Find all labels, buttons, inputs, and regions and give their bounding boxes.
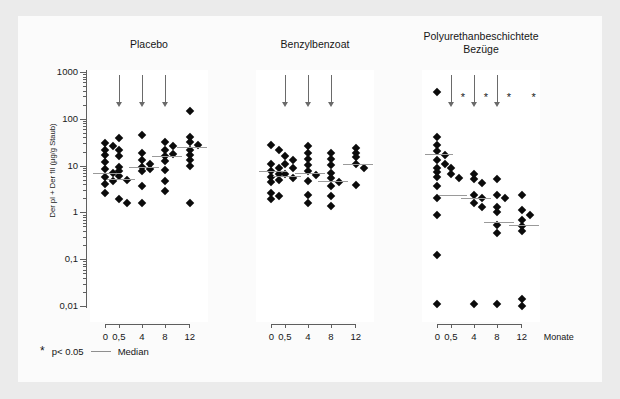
x-axis-tick-label: 8	[328, 331, 333, 342]
intervention-arrow	[451, 75, 452, 103]
y-axis-minor-tick	[83, 220, 87, 221]
figure-container: Der pI + Der fII (µg/g Staub) * p< 0.05 …	[18, 16, 602, 382]
y-axis-minor-tick	[83, 133, 87, 134]
x-axis-tick	[474, 324, 475, 328]
y-axis-minor-tick	[83, 176, 87, 177]
x-axis-tick-label: 0,5	[278, 331, 291, 342]
x-axis-tick	[119, 324, 120, 328]
median-line	[129, 167, 159, 168]
y-axis-minor-tick	[83, 126, 87, 127]
x-axis-tick-label: 0	[103, 331, 108, 342]
x-axis-tick	[331, 324, 332, 328]
median-line-icon	[91, 351, 111, 352]
y-axis-minor-tick	[83, 264, 87, 265]
median-line	[152, 156, 182, 157]
intervention-arrow	[285, 75, 286, 103]
y-axis-minor-tick	[83, 231, 87, 232]
legend-median-label: Median	[118, 346, 149, 357]
x-axis-tick	[285, 324, 286, 328]
median-line	[107, 179, 135, 180]
y-axis-tick-label: 100	[38, 113, 78, 124]
intervention-arrow-head	[471, 102, 477, 107]
x-axis-tick-label: 0	[269, 331, 274, 342]
x-axis-tick-label: 4	[139, 331, 144, 342]
y-axis-minor-tick	[83, 270, 87, 271]
y-axis-minor-tick	[83, 284, 87, 285]
y-axis-tick-label: 0,01	[38, 300, 78, 311]
y-axis-major-tick	[80, 166, 87, 167]
x-axis-tick-label: 4	[305, 331, 310, 342]
y-axis-minor-tick	[83, 105, 87, 106]
x-axis-tick	[497, 324, 498, 328]
median-line	[461, 198, 491, 199]
y-axis-major-tick	[80, 259, 87, 260]
x-axis-tick-label: 12	[184, 331, 195, 342]
panel-title-3: Polyurethanbeschichtete Bezüge	[396, 30, 566, 55]
median-line	[509, 225, 539, 226]
significance-star-icon: *	[40, 347, 45, 356]
intervention-arrow	[331, 75, 332, 103]
y-axis-major-tick	[80, 212, 87, 213]
y-axis-tick-label: 0,1	[38, 253, 78, 264]
y-axis-minor-tick	[83, 223, 87, 224]
y-axis-major-tick	[80, 306, 87, 307]
y-axis-minor-tick	[83, 82, 87, 83]
intervention-arrow-head	[162, 102, 168, 107]
x-axis-tick-label: 12	[350, 331, 361, 342]
significance-star: *	[507, 94, 511, 100]
y-axis-minor-tick	[83, 245, 87, 246]
y-axis-minor-tick	[83, 292, 87, 293]
intervention-arrow	[497, 75, 498, 103]
chart-legend: * p< 0.05 Median	[40, 346, 149, 357]
x-axis-tick	[308, 324, 309, 328]
y-axis-minor-tick	[83, 129, 87, 130]
y-axis-minor-tick	[83, 173, 87, 174]
median-line	[318, 181, 348, 182]
y-axis-minor-tick	[83, 123, 87, 124]
plot-area-2	[256, 70, 374, 322]
y-axis-minor-tick	[83, 170, 87, 171]
intervention-arrow	[119, 75, 120, 103]
median-line	[295, 173, 325, 174]
median-line	[93, 173, 121, 174]
y-axis-minor-tick	[83, 91, 87, 92]
panel-title-2: Benzylbenzoat	[230, 38, 400, 51]
significance-star: *	[484, 94, 488, 100]
y-axis-minor-tick	[83, 152, 87, 153]
x-axis-tick	[142, 324, 143, 328]
panel-title-1: Placebo	[64, 38, 234, 51]
y-axis-minor-tick	[83, 96, 87, 97]
intervention-arrow	[308, 75, 309, 103]
y-axis-minor-tick	[83, 226, 87, 227]
intervention-arrow	[474, 75, 475, 103]
y-axis-tick-label: 1	[38, 206, 78, 217]
y-axis-minor-tick	[83, 143, 87, 144]
intervention-arrow-head	[448, 102, 454, 107]
intervention-arrow	[165, 75, 166, 103]
intervention-arrow-head	[305, 102, 311, 107]
x-axis-unit-label: Monate	[544, 332, 574, 342]
y-axis-minor-tick	[83, 273, 87, 274]
median-line	[484, 222, 514, 223]
y-axis-minor-tick	[83, 86, 87, 87]
x-axis-tick-label: 0,5	[112, 331, 125, 342]
intervention-arrow-head	[116, 102, 122, 107]
x-axis-tick-label: 4	[471, 331, 476, 342]
intervention-arrow-head	[139, 102, 145, 107]
intervention-arrow	[142, 75, 143, 103]
y-axis-minor-tick	[83, 77, 87, 78]
y-axis-tick-label: 10	[38, 160, 78, 171]
median-line	[343, 164, 373, 165]
x-axis-tick-label: 8	[494, 331, 499, 342]
y-axis-minor-tick	[83, 168, 87, 169]
y-axis-minor-tick	[83, 198, 87, 199]
x-axis-tick	[451, 324, 452, 328]
y-axis-minor-tick	[83, 121, 87, 122]
intervention-arrow-head	[282, 102, 288, 107]
y-axis-minor-tick	[83, 237, 87, 238]
median-line	[177, 147, 207, 148]
y-axis-minor-tick	[83, 137, 87, 138]
y-axis-minor-tick	[83, 217, 87, 218]
y-axis-minor-tick	[83, 215, 87, 216]
x-axis-tick-label: 12	[516, 331, 527, 342]
